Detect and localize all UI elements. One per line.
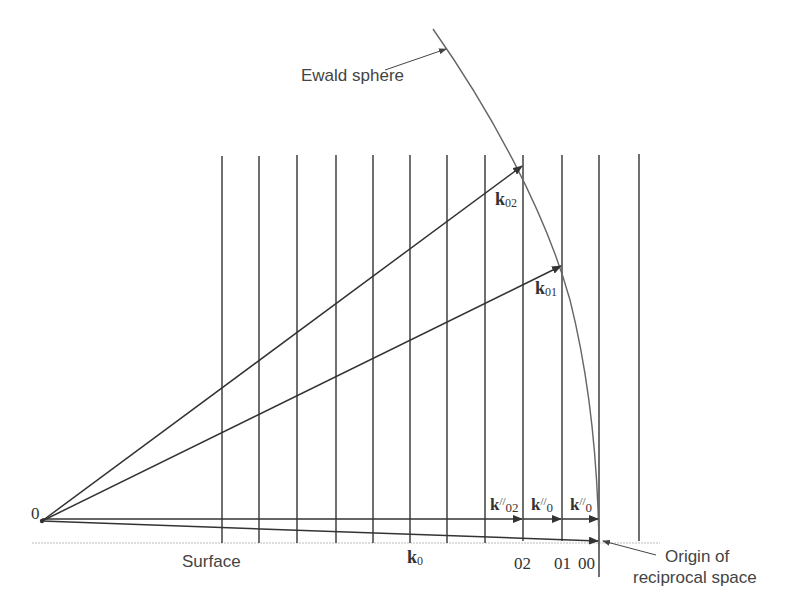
k01-vector bbox=[42, 266, 561, 521]
k-par-02-label: k//02 bbox=[490, 495, 519, 515]
origin-reciprocal-label-2: reciprocal space bbox=[633, 568, 757, 587]
ewald-diagram: Ewald sphere Surface 0 Origin of recipro… bbox=[0, 0, 796, 607]
k0-vector bbox=[42, 521, 598, 541]
origin-reciprocal-label-1: Origin of bbox=[665, 547, 730, 566]
k-par-0b-label: k//0 bbox=[570, 495, 592, 515]
origin-point-dot bbox=[40, 519, 44, 523]
k-par-0a-label: k//0 bbox=[531, 495, 553, 515]
k02-vector bbox=[42, 166, 522, 521]
rod-label-00: 00 bbox=[578, 554, 595, 573]
k0-label: k0 bbox=[407, 547, 423, 568]
rod-label-02: 02 bbox=[514, 554, 531, 573]
rod-label-01: 01 bbox=[554, 554, 571, 573]
surface-label: Surface bbox=[182, 552, 241, 571]
k02-label: k02 bbox=[495, 189, 517, 210]
ewald-sphere-label: Ewald sphere bbox=[301, 66, 404, 85]
origin-point-label: 0 bbox=[31, 504, 40, 523]
k01-label: k01 bbox=[535, 278, 557, 299]
